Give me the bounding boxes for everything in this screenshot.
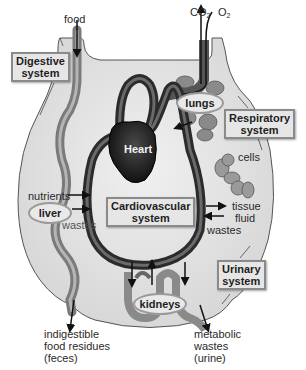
o2-sub: 2 — [227, 12, 231, 19]
o2-main: O — [218, 6, 227, 18]
heart-label: Heart — [124, 143, 152, 155]
urine-line1: metabolic — [194, 328, 241, 340]
urinary-system-line2: system — [222, 275, 261, 287]
tissue-fluid-label: tissue fluid — [232, 200, 261, 224]
urine-line3: (urine) — [194, 352, 241, 364]
feces-line1: indigestible — [44, 328, 110, 340]
cells-label: cells — [238, 151, 260, 163]
co2-label: CO2 — [190, 6, 210, 22]
digestive-system-line1: Digestive — [16, 55, 65, 67]
respiratory-system-box: Respiratory system — [224, 109, 295, 139]
lungs-label: lungs — [176, 92, 224, 114]
wastes-left-label: wastes — [62, 219, 96, 231]
wastes-right-label: wastes — [207, 224, 241, 236]
digestive-system-box: Digestive system — [11, 52, 70, 82]
co2-main: CO — [190, 6, 207, 18]
feces-line3: (feces) — [44, 352, 110, 364]
tissue-fluid-line2: fluid — [232, 212, 261, 224]
nutrients-label: nutrients — [28, 190, 70, 202]
food-label: food — [64, 13, 85, 25]
cardiovascular-system-line1: Cardiovascular — [111, 200, 190, 212]
cardiovascular-system-line2: system — [111, 212, 190, 224]
o2-label: O2 — [218, 6, 230, 22]
urine-label: metabolic wastes (urine) — [194, 328, 241, 364]
tissue-fluid-line1: tissue — [232, 200, 261, 212]
cardiovascular-system-box: Cardiovascular system — [106, 197, 195, 227]
respiratory-system-line2: system — [229, 124, 290, 136]
kidneys-label: kidneys — [133, 293, 187, 315]
urine-line2: wastes — [194, 340, 241, 352]
respiratory-system-line1: Respiratory — [229, 112, 290, 124]
feces-line2: food residues — [44, 340, 110, 352]
co2-sub: 2 — [207, 12, 211, 19]
urinary-system-box: Urinary system — [217, 260, 266, 290]
feces-label: indigestible food residues (feces) — [44, 328, 110, 364]
urinary-system-line1: Urinary — [222, 263, 261, 275]
digestive-system-line2: system — [16, 67, 65, 79]
